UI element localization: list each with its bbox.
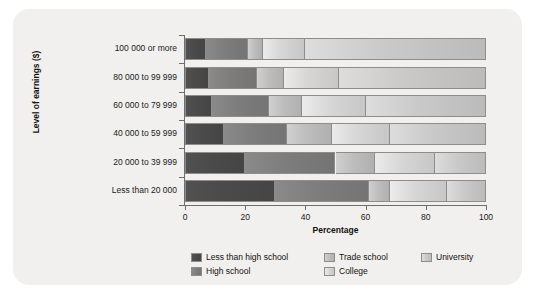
y-axis-category-labels: 100 000 or more80 000 to 99 99960 000 to… <box>51 35 177 206</box>
x-axis-tick-label: 100 <box>479 212 493 222</box>
legend-label: High school <box>206 266 250 276</box>
legend-item[interactable]: Less than high school <box>191 252 288 262</box>
legend-swatch-icon <box>324 267 335 276</box>
x-axis-tick-label: 80 <box>421 212 430 222</box>
bar-segment <box>447 180 486 202</box>
chart-card: 100 000 or more80 000 to 99 99960 000 to… <box>13 9 522 285</box>
bar-segment <box>245 152 335 174</box>
legend-item[interactable]: University <box>421 252 473 262</box>
x-axis-tick <box>185 205 186 210</box>
legend-swatch-icon <box>324 253 335 262</box>
x-axis-tick-label: 40 <box>301 212 310 222</box>
bar-segment <box>263 38 305 60</box>
y-axis-tick-label: 80 000 to 99 999 <box>57 72 177 82</box>
bar-segment <box>185 95 212 117</box>
bar-row <box>185 152 486 174</box>
x-axis-tick <box>305 205 306 210</box>
bar-segment <box>269 95 302 117</box>
bar-segment <box>287 123 332 145</box>
y-axis-tick-label: 60 000 to 79 999 <box>57 100 177 110</box>
y-axis-tick-label: 40 000 to 59 999 <box>57 128 177 138</box>
legend-swatch-icon <box>421 253 432 262</box>
bar-segment <box>390 180 447 202</box>
bar-segment <box>224 123 287 145</box>
bar-segment <box>185 180 275 202</box>
bar-segment <box>185 123 224 145</box>
bar-segment <box>435 152 486 174</box>
bar-segment <box>369 180 390 202</box>
bar-segment <box>302 95 365 117</box>
y-axis-title: Level of earnings ($) <box>31 32 41 152</box>
bar-segment <box>185 67 209 89</box>
bar-row <box>185 38 486 60</box>
bar-segment <box>209 67 257 89</box>
x-axis-tick <box>245 205 246 210</box>
bar-segment <box>390 123 486 145</box>
bar-segment <box>185 152 245 174</box>
bar-row <box>185 95 486 117</box>
plot-area <box>185 35 486 205</box>
chart-legend: Less than high schoolHigh schoolTrade sc… <box>191 252 511 282</box>
x-axis-tick <box>366 205 367 210</box>
bar-row <box>185 123 486 145</box>
bar-row <box>185 67 486 89</box>
legend-swatch-icon <box>191 267 202 276</box>
legend-swatch-icon <box>191 253 202 262</box>
x-axis-tick <box>486 205 487 210</box>
bar-segment <box>257 67 284 89</box>
bar-segment <box>212 95 269 117</box>
legend-label: College <box>339 266 368 276</box>
legend-label: Trade school <box>339 252 388 262</box>
legend-item[interactable]: High school <box>191 266 250 276</box>
bar-segment <box>336 152 375 174</box>
bar-segment <box>332 123 389 145</box>
bar-segment <box>275 180 368 202</box>
bar-segment <box>305 38 486 60</box>
y-axis-tick-label: 100 000 or more <box>57 43 177 53</box>
x-axis-line <box>184 205 487 206</box>
y-axis-tick-label: Less than 20 000 <box>57 185 177 195</box>
bar-row <box>185 180 486 202</box>
x-axis-tick-label: 0 <box>183 212 188 222</box>
bar-segment <box>185 38 206 60</box>
bar-segment <box>248 38 263 60</box>
bar-segment <box>375 152 435 174</box>
bar-segment <box>366 95 486 117</box>
legend-label: Less than high school <box>206 252 288 262</box>
legend-item[interactable]: College <box>324 266 368 276</box>
y-axis-tick-label: 20 000 to 39 999 <box>57 157 177 167</box>
x-axis-tick-label: 20 <box>240 212 249 222</box>
x-axis-tick-label: 60 <box>361 212 370 222</box>
x-axis-title: Percentage <box>184 225 487 235</box>
legend-label: University <box>436 252 473 262</box>
legend-item[interactable]: Trade school <box>324 252 388 262</box>
bar-segment <box>339 67 486 89</box>
x-axis-tick <box>426 205 427 210</box>
bar-segment <box>284 67 338 89</box>
bar-segment <box>206 38 248 60</box>
